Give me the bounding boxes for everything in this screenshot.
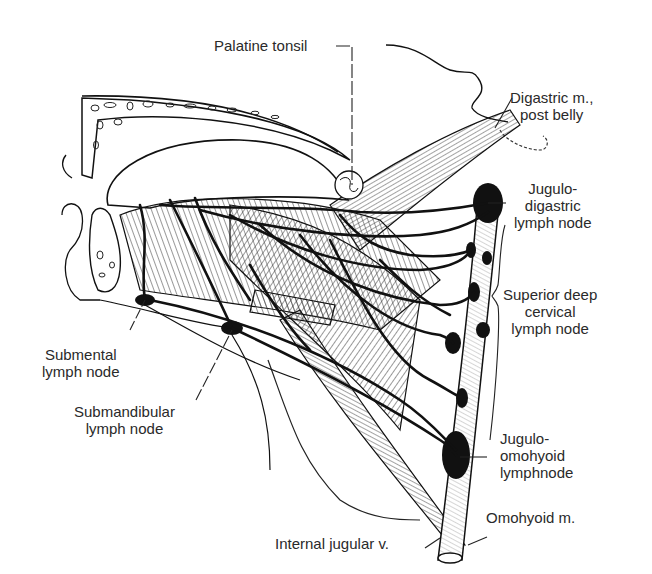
lymphatic-vessels-fine [100, 300, 300, 470]
leader-internal-jugular [425, 538, 440, 548]
label-digastric: Digastric m., post belly [510, 89, 593, 123]
superior-deep-cervical-node-2 [482, 251, 492, 265]
superior-deep-cervical-node-4 [476, 322, 490, 338]
leader-palatine-tonsil [336, 46, 352, 185]
label-jugulo-omohyoid: Jugulo- omohyoid lymphnode [500, 430, 573, 481]
label-submental: Submental lymph node [42, 346, 120, 380]
label-jugulodigastric: Jugulo- digastric lymph node [514, 180, 592, 231]
leader-submental [130, 300, 145, 330]
label-submandibular: Submandibular lymph node [74, 403, 175, 437]
lower-incisor [90, 208, 121, 292]
leader-submandibular [196, 330, 232, 400]
face-profile [386, 45, 508, 122]
label-palatine-tonsil: Palatine tonsil [214, 37, 307, 54]
leader-omohyoid [468, 537, 487, 545]
label-internal-jugular: Internal jugular v. [275, 535, 389, 552]
label-superior-deep-cervical: Superior deep cervical lymph node [503, 286, 597, 337]
palatine-tonsil [335, 171, 363, 199]
label-omohyoid: Omohyoid m. [486, 509, 575, 526]
tongue [107, 140, 348, 208]
